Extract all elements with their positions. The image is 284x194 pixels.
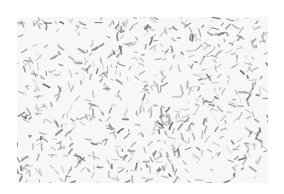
texture-canvas [17, 17, 268, 183]
speckle-texture-image [17, 17, 268, 183]
